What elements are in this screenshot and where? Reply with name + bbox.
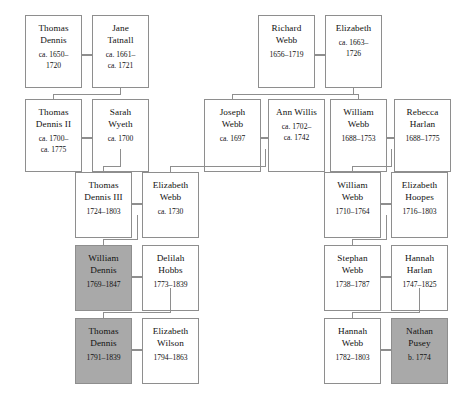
marriage-link-stephan-hannahharlan — [381, 276, 391, 278]
person-name-line2: Pusey — [408, 338, 430, 350]
descent-bar-williamdennis-to-thomas1791 — [103, 312, 171, 313]
descent-bar-richardwebb-children — [232, 94, 359, 95]
descent-stem-josephwebb-union — [265, 149, 266, 166]
person-name-line2: Webb — [342, 265, 364, 277]
marriage-link-richard-elizabeth — [315, 54, 325, 56]
descent-stem-stephan-union — [419, 288, 420, 312]
person-dates-line1: ca. 1661– — [106, 49, 136, 60]
person-box-stephan-webb[interactable]: Stephan Webb 1738–1787 — [324, 245, 381, 311]
descent-bar-josephwebb-to-elizabethwebb — [170, 166, 266, 167]
person-dates-line1: 1769–1847 — [86, 279, 120, 290]
person-dates-line1: 1738–1787 — [335, 279, 369, 290]
person-name-line2: Webb — [348, 119, 370, 131]
person-name-line2: Dennis — [40, 35, 67, 47]
person-name-line1: Joseph — [220, 107, 246, 119]
person-dates-line1: 1688–1753 — [341, 133, 375, 144]
person-dates-line1: 1794–1863 — [153, 352, 187, 363]
person-name-line1: William — [343, 107, 373, 119]
person-box-richard-webb[interactable]: Richard Webb 1656–1719 — [258, 15, 315, 88]
person-name-line2: Webb — [276, 35, 298, 47]
person-name-line1: Thomas — [38, 107, 68, 119]
person-name-line1: Delilah — [157, 253, 185, 265]
person-box-elizabeth[interactable]: Elizabeth ca. 1663– 1726 — [325, 15, 382, 88]
marriage-link-williamdennis-delilah — [132, 276, 142, 278]
person-box-thomas-dennis-iii[interactable]: Thomas Dennis III 1724–1803 — [75, 172, 132, 238]
person-box-ann-willis[interactable]: Ann Willis ca. 1702– ca. 1742 — [268, 99, 325, 172]
person-dates-line1: 1656–1719 — [269, 49, 303, 60]
person-name-line1: Sarah — [110, 107, 131, 119]
person-box-joseph-webb[interactable]: Joseph Webb ca. 1697 — [204, 99, 261, 172]
descent-stem-dennis2-union — [120, 160, 121, 166]
descent-bar-williamwebb1688-to-1710 — [352, 166, 392, 167]
person-name-line1: Elizabeth — [336, 23, 372, 35]
descent-rise-williamwebb1710 — [352, 166, 353, 172]
person-name-line1: Rebecca — [407, 107, 439, 119]
person-dates-line2: ca. 1742 — [284, 132, 310, 143]
descent-stem-williamwebb1710-union — [386, 215, 387, 239]
person-box-thomas-dennis-1791[interactable]: Thomas Dennis 1791–1839 — [75, 318, 132, 384]
person-name-line1: Jane — [112, 23, 129, 35]
descent-bar-dennis1-to-dennis2 — [53, 94, 121, 95]
descent-rise-dennis2 — [53, 94, 54, 99]
person-box-elizabeth-wilson[interactable]: Elizabeth Wilson 1794–1863 — [142, 318, 199, 384]
person-dates-line1: 1716–1803 — [402, 206, 436, 217]
person-name-line2: Webb — [342, 338, 364, 350]
person-name-line2: Dennis — [90, 338, 117, 350]
person-name-line1: Thomas — [88, 180, 118, 192]
person-dates-line1: ca. 1730 — [158, 206, 184, 217]
person-box-william-webb-1710[interactable]: William Webb 1710–1764 — [324, 172, 381, 238]
person-dates-line1: 1782–1803 — [335, 352, 369, 363]
person-dates-line1: ca. 1700– — [39, 133, 69, 144]
person-box-elizabeth-hoopes[interactable]: Elizabeth Hoopes 1716–1803 — [391, 172, 448, 238]
descent-stem-williamwebb1688-union — [391, 149, 392, 166]
descent-stem-williamdennis-union — [170, 288, 171, 312]
marriage-link-dennisiii-elizabethwebb — [132, 203, 142, 205]
person-dates-line1: 1710–1764 — [335, 206, 369, 217]
family-tree-diagram: Thomas Dennis ca. 1650– 1720 Jane Tatnal… — [0, 0, 453, 401]
descent-rise-stephanwebb — [352, 239, 353, 245]
person-dates-line1: 1724–1803 — [86, 206, 120, 217]
person-name-line2: Harlan — [407, 265, 433, 277]
person-name-line1: Ann Willis — [276, 107, 317, 119]
person-dates-line1: 1688–1775 — [405, 133, 439, 144]
marriage-link-williamwebb1710-hoopes — [381, 203, 391, 205]
person-name-line2: Hobbs — [158, 265, 183, 277]
descent-stem-dennis3-union — [137, 215, 138, 239]
person-box-thomas-dennis-ii[interactable]: Thomas Dennis II ca. 1700– ca. 1775 — [25, 99, 82, 172]
person-dates-line1: 1791–1839 — [86, 352, 120, 363]
descent-rise-williamdennis — [103, 239, 104, 245]
person-dates-line1: ca. 1702– — [282, 121, 312, 132]
person-box-william-dennis[interactable]: William Dennis 1769–1847 — [75, 245, 132, 311]
person-box-nathan-pusey[interactable]: Nathan Pusey b. 1774 — [391, 318, 448, 384]
person-name-line2: Webb — [160, 192, 182, 204]
person-name-line1: Hannah — [405, 253, 434, 265]
marriage-link-williamwebb-rebecca — [387, 137, 394, 139]
person-dates-line2: 1720 — [46, 60, 61, 71]
person-box-william-webb-1688[interactable]: William Webb 1688–1753 — [330, 99, 387, 172]
person-box-jane-tatnall[interactable]: Jane Tatnall ca. 1661– ca. 1721 — [92, 15, 149, 88]
person-box-thomas-dennis-i[interactable]: Thomas Dennis ca. 1650– 1720 — [25, 15, 82, 88]
descent-rise-williamwebb1688 — [358, 94, 359, 99]
marriage-link-hannahwebb-pusey — [381, 349, 391, 351]
person-name-line2: Hoopes — [405, 192, 434, 204]
person-name-line1: Hannah — [338, 326, 367, 338]
marriage-link-joseph-ann — [261, 137, 268, 139]
person-dates-line1: ca. 1663– — [339, 37, 369, 48]
person-box-rebecca-harlan[interactable]: Rebecca Harlan 1688–1775 — [394, 99, 451, 172]
descent-rise-hannahwebb — [352, 312, 353, 318]
person-name-line2: Dennis — [90, 265, 117, 277]
person-dates-line2: 1726 — [346, 48, 361, 59]
person-box-hannah-webb[interactable]: Hannah Webb 1782–1803 — [324, 318, 381, 384]
person-name-line1: Stephan — [337, 253, 367, 265]
person-name-line1: Nathan — [406, 326, 433, 338]
descent-bar-dennis3-to-williamdennis — [103, 239, 138, 240]
descent-rise-josephwebb — [232, 94, 233, 99]
person-dates-line1: b. 1774 — [408, 352, 431, 363]
marriage-link-thomas1791-wilson — [132, 349, 142, 351]
person-box-elizabeth-webb[interactable]: Elizabeth Webb ca. 1730 — [142, 172, 199, 238]
person-dates-line2: ca. 1775 — [41, 144, 67, 155]
person-name-line2: Wyeth — [108, 119, 132, 131]
marriage-link-dennisii-wyeth — [82, 137, 92, 139]
person-name-line1: Thomas — [38, 23, 68, 35]
person-name-line2: Dennis II — [36, 119, 71, 131]
